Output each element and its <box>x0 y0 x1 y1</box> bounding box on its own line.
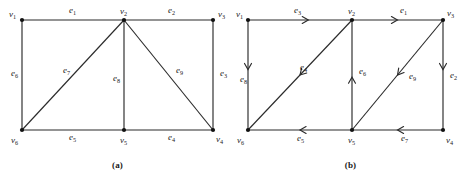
vertex-dot-v2 <box>122 18 126 22</box>
figure-a-undirected-graph: v1v2v3v4v5v6 e1e2e3e4e5e6e7e8e9 (a) <box>0 0 235 172</box>
vertex-label-v5: v5 <box>120 135 127 146</box>
vertex-dot-v4 <box>441 128 445 132</box>
figure-a-edges <box>22 20 213 130</box>
vertex-dot-v3 <box>441 18 445 22</box>
edge-label-e2: e2 <box>168 5 175 16</box>
edge-label-e1: e1 <box>69 5 76 16</box>
vertex-dot-v5 <box>122 128 126 132</box>
vertex-dot-v2 <box>350 18 354 22</box>
edge-label-e1: e1 <box>400 5 407 16</box>
edge-label-e2: e2 <box>450 70 457 81</box>
figure-b-canvas: v1v2v3v4v5v6 e3e1e8e2e6e4e9e5e7 <box>230 0 471 172</box>
vertex-dot-v1 <box>246 18 250 22</box>
vertex-label-v5: v5 <box>348 135 355 146</box>
vertex-label-v2: v2 <box>120 6 127 17</box>
vertex-label-v6: v6 <box>237 135 244 146</box>
figure-b-edge-labels: e3e1e8e2e6e4e9e5e7 <box>240 5 457 144</box>
vertex-label-v4: v4 <box>216 134 223 145</box>
edge-label-e9: e9 <box>176 65 183 76</box>
edge-label-e4: e4 <box>300 62 307 73</box>
edge-label-e6: e6 <box>11 68 18 79</box>
edge-label-e5: e5 <box>69 132 76 143</box>
vertex-dot-v3 <box>211 18 215 22</box>
figure-b-arrowheads <box>245 17 447 134</box>
vertex-label-v2: v2 <box>348 6 355 17</box>
vertex-dot-v6 <box>20 128 24 132</box>
vertex-dot-v5 <box>350 128 354 132</box>
vertex-label-v3: v3 <box>218 9 225 20</box>
edge-label-e4: e4 <box>168 132 175 143</box>
vertex-label-v1: v1 <box>9 9 16 20</box>
edge-label-e8: e8 <box>113 73 120 84</box>
vertex-dot-v4 <box>211 128 215 132</box>
vertex-label-v6: v6 <box>11 135 18 146</box>
vertex-label-v4: v4 <box>446 135 453 146</box>
figure-page: v1v2v3v4v5v6 e1e2e3e4e5e6e7e8e9 (a) v1v2… <box>0 0 471 172</box>
edge-label-e9: e9 <box>409 71 416 82</box>
edge-label-e5: e5 <box>297 133 304 144</box>
figure-b-directed-graph: v1v2v3v4v5v6 e3e1e8e2e6e4e9e5e7 (b) <box>230 0 471 172</box>
vertex-dot-v1 <box>20 18 24 22</box>
edge-label-e6: e6 <box>359 66 366 77</box>
vertex-label-v1: v1 <box>236 9 243 20</box>
edge-e7 <box>22 20 124 130</box>
figure-a-canvas: v1v2v3v4v5v6 e1e2e3e4e5e6e7e8e9 <box>0 0 235 172</box>
edge-label-e7: e7 <box>401 133 408 144</box>
edge-e9 <box>124 20 213 130</box>
vertex-label-v3: v3 <box>447 8 454 19</box>
edge-label-e8: e8 <box>240 74 247 85</box>
vertex-dot-v6 <box>246 128 250 132</box>
edge-label-e3: e3 <box>294 5 301 16</box>
figure-a-caption: (a) <box>0 160 235 170</box>
edge-label-e3: e3 <box>220 68 227 79</box>
edge-label-e7: e7 <box>63 65 70 76</box>
figure-a-vertex-dots <box>20 18 215 132</box>
figure-b-caption: (b) <box>230 160 471 170</box>
